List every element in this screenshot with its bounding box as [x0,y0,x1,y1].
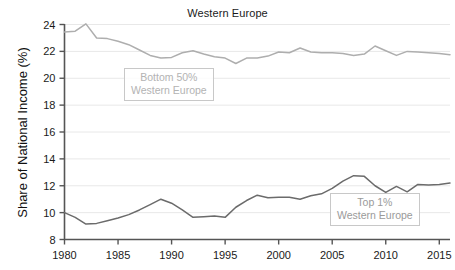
x-tick-label: 2000 [266,249,290,261]
y-tick-label: 18 [43,99,55,111]
x-tick-label: 2005 [320,249,344,261]
y-tick-label: 10 [43,207,55,219]
y-tick-label: 12 [43,180,55,192]
y-tick-label: 14 [43,153,55,165]
x-axis-ticks: 19801985199019952000200520102015 [52,240,451,261]
annotation-top1-line1: Top 1% [337,196,413,209]
series-line [65,24,451,64]
annotation-top1: Top 1% Western Europe [330,193,420,226]
x-tick-label: 2010 [374,249,398,261]
annotation-top1-line2: Western Europe [337,209,413,222]
annotation-bottom50: Bottom 50% Western Europe [124,68,214,101]
annotation-bottom50-line1: Bottom 50% [131,71,207,84]
x-tick-label: 1985 [106,249,130,261]
annotation-bottom50-line2: Western Europe [131,84,207,97]
y-tick-label: 22 [43,45,55,57]
x-tick-label: 1980 [52,249,76,261]
chart-page: Western Europe Share of National Income … [0,0,455,270]
x-tick-label: 2015 [427,249,451,261]
chart-plot-area: 81012141618202224 1980198519901995200020… [0,0,455,270]
y-tick-label: 8 [49,234,55,246]
y-tick-label: 24 [43,19,55,31]
y-tick-label: 16 [43,126,55,138]
y-tick-label: 20 [43,72,55,84]
y-axis-ticks: 81012141618202224 [43,19,64,246]
x-tick-label: 1995 [213,249,237,261]
x-tick-label: 1990 [159,249,183,261]
